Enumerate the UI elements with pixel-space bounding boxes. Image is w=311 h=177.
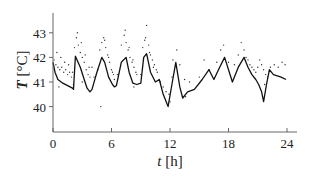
- data-point: [179, 64, 180, 65]
- data-point: [199, 76, 200, 77]
- data-point: [100, 106, 101, 107]
- x-tick-label: 0: [50, 136, 57, 151]
- data-point: [76, 37, 77, 38]
- data-point: [132, 59, 133, 60]
- data-point: [255, 72, 256, 73]
- data-point: [278, 67, 279, 68]
- data-point: [251, 67, 252, 68]
- data-point: [61, 67, 62, 68]
- data-point: [135, 72, 136, 73]
- data-point: [72, 72, 73, 73]
- data-point: [203, 59, 204, 60]
- data-point: [65, 69, 66, 70]
- data-point: [189, 81, 190, 82]
- data-point: [104, 40, 105, 41]
- data-point: [157, 72, 158, 73]
- data-point: [82, 81, 83, 82]
- data-point: [99, 49, 100, 50]
- y-tick-label: 41: [33, 75, 46, 90]
- y-tick-label: 40: [33, 100, 46, 115]
- data-point: [154, 64, 155, 65]
- data-point: [131, 62, 132, 63]
- chart-svg: 40414243 06121824 T [°C] t [h]: [0, 0, 311, 177]
- data-point: [113, 74, 114, 75]
- data-point: [133, 67, 134, 68]
- data-point: [264, 84, 265, 85]
- temperature-chart: 40414243 06121824 T [°C] t [h]: [0, 0, 311, 177]
- data-point: [87, 74, 88, 75]
- data-point: [59, 69, 60, 70]
- data-point: [245, 57, 246, 58]
- data-point: [74, 47, 75, 48]
- data-point: [243, 49, 244, 50]
- data-point: [223, 44, 224, 45]
- data-point: [114, 79, 115, 80]
- data-point: [112, 72, 113, 73]
- data-point: [163, 86, 164, 87]
- data-point: [270, 67, 271, 68]
- y-axis-label: T [°C]: [14, 51, 30, 90]
- data-point: [125, 30, 126, 31]
- data-point: [88, 67, 89, 68]
- data-point: [241, 42, 242, 43]
- x-tick-label: 6: [108, 136, 115, 151]
- data-point: [89, 76, 90, 77]
- data-point: [80, 52, 81, 53]
- data-point: [146, 25, 147, 26]
- data-point: [82, 57, 83, 58]
- data-point: [149, 52, 150, 53]
- data-point: [220, 49, 221, 50]
- y-ticks: 40414243: [33, 26, 53, 115]
- data-point: [263, 69, 264, 70]
- data-point: [148, 44, 149, 45]
- data-point: [128, 47, 129, 48]
- data-point: [150, 54, 151, 55]
- data-point: [71, 76, 72, 77]
- data-point: [81, 42, 82, 43]
- data-point: [68, 64, 69, 65]
- data-point: [249, 64, 250, 65]
- data-point: [85, 54, 86, 55]
- data-point: [261, 64, 262, 65]
- data-point: [142, 47, 143, 48]
- data-point: [247, 59, 248, 60]
- data-point: [103, 37, 104, 38]
- data-point: [67, 74, 68, 75]
- data-point: [185, 96, 186, 97]
- data-point: [156, 69, 157, 70]
- data-point: [265, 74, 266, 75]
- data-point: [152, 59, 153, 60]
- data-point: [136, 74, 137, 75]
- data-point: [121, 44, 122, 45]
- data-point: [171, 76, 172, 77]
- data-point: [60, 57, 61, 58]
- y-tick-label: 42: [33, 50, 46, 65]
- data-point: [274, 64, 275, 65]
- data-point: [105, 47, 106, 48]
- data-point: [64, 62, 65, 63]
- data-point: [129, 57, 130, 58]
- data-point: [124, 35, 125, 36]
- data-point: [234, 64, 235, 65]
- data-point: [55, 64, 56, 65]
- data-point: [176, 49, 177, 50]
- data-point: [281, 62, 282, 63]
- data-point: [228, 62, 229, 63]
- data-point: [91, 67, 92, 68]
- x-tick-label: 24: [281, 136, 295, 151]
- data-point: [144, 40, 145, 41]
- data-point: [86, 69, 87, 70]
- data-point: [93, 76, 94, 77]
- data-point: [58, 86, 59, 87]
- data-point: [77, 32, 78, 33]
- data-point: [165, 91, 166, 92]
- data-point: [153, 67, 154, 68]
- data-point: [125, 42, 126, 43]
- data-point: [127, 49, 128, 50]
- y-tick-label: 43: [33, 26, 46, 41]
- x-ticks: 06121824: [50, 128, 294, 151]
- data-point: [78, 44, 79, 45]
- data-point: [259, 59, 260, 60]
- data-point: [107, 54, 108, 55]
- data-point: [117, 74, 118, 75]
